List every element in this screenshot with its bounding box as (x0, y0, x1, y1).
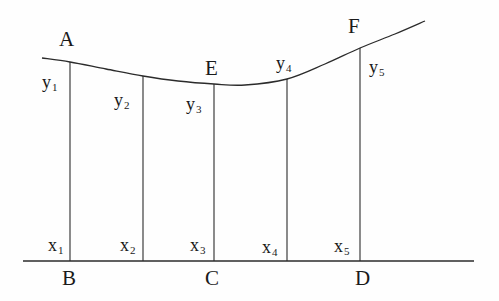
point-e: E (205, 58, 218, 79)
geometry-figure: AEFBCDy1y2y3y4y5x1x2x3x4x5 (0, 0, 499, 301)
ordinate-label-y1: y1 (42, 73, 57, 91)
abscissa-label-x3: x3 (190, 236, 205, 254)
ordinate-label-y5: y5 (369, 58, 384, 76)
point-d: D (355, 268, 370, 289)
point-f: F (348, 16, 360, 37)
abscissa-label-x5: x5 (334, 237, 349, 255)
point-c: C (205, 268, 219, 289)
point-b: B (62, 268, 76, 289)
abscissa-label-x2: x2 (120, 236, 135, 254)
abscissa-label-x4: x4 (262, 238, 277, 256)
curve-path (42, 21, 425, 85)
figure-strokes (23, 21, 474, 261)
abscissa-label-x1: x1 (48, 236, 63, 254)
figure-svg (0, 0, 499, 301)
ordinate-label-y2: y2 (114, 91, 129, 109)
ordinate-label-y4: y4 (276, 54, 291, 72)
ordinate-label-y3: y3 (186, 95, 201, 113)
point-a: A (59, 29, 74, 50)
